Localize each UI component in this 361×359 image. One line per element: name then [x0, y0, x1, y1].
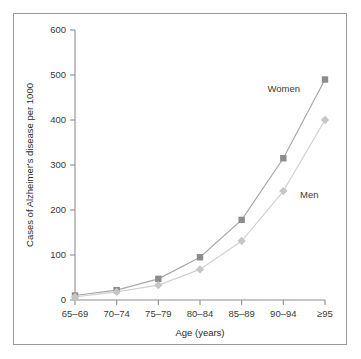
- x-tick-label: 90–94: [270, 308, 296, 319]
- y-tick-label: 500: [50, 69, 66, 80]
- x-tick-label: 70–74: [103, 308, 129, 319]
- x-tick-label: 80–84: [187, 308, 213, 319]
- x-axis-title: Age (years): [175, 327, 224, 338]
- series-label-men: Men: [300, 189, 318, 200]
- data-point-men: [321, 116, 329, 124]
- y-axis-ticks: [70, 30, 75, 300]
- data-point-men: [154, 281, 162, 289]
- series-lines: [75, 80, 325, 297]
- series-markers: [71, 76, 329, 301]
- y-tick-label: 0: [61, 294, 66, 305]
- figure-canvas: 0100200300400500600 65–6970–7475–7980–84…: [0, 0, 361, 359]
- line-chart: 0100200300400500600 65–6970–7475–7980–84…: [0, 0, 361, 359]
- y-tick-label: 100: [50, 249, 66, 260]
- y-tick-label: 200: [50, 204, 66, 215]
- y-tick-label: 400: [50, 114, 66, 125]
- series-label-women: Women: [267, 83, 300, 94]
- data-point-women: [238, 217, 244, 223]
- x-tick-label: 65–69: [62, 308, 88, 319]
- data-point-women: [322, 76, 328, 82]
- data-point-women: [280, 155, 286, 161]
- x-axis-ticks: [75, 300, 325, 305]
- x-tick-label: ≥95: [317, 308, 333, 319]
- data-point-men: [196, 265, 204, 273]
- series-line-women: [75, 80, 325, 296]
- x-axis-tick-labels: 65–6970–7475–7980–8485–8990–94≥95: [62, 308, 333, 319]
- y-tick-label: 300: [50, 159, 66, 170]
- y-tick-label: 600: [50, 24, 66, 35]
- data-point-women: [197, 254, 203, 260]
- x-tick-label: 75–79: [145, 308, 171, 319]
- y-axis-title: Cases of Alzheimer's disease per 1000: [24, 83, 35, 247]
- y-axis-tick-labels: 0100200300400500600: [50, 24, 66, 305]
- x-tick-label: 85–89: [228, 308, 254, 319]
- series-annotations: WomenMen: [267, 83, 318, 200]
